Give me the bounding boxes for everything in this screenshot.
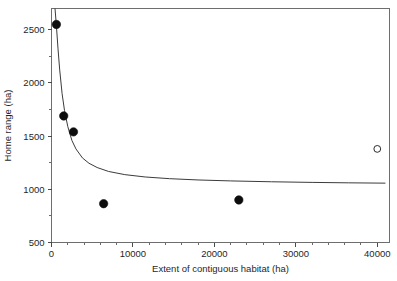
y-axis-tick-labels: 5001000150020002500 xyxy=(23,24,44,248)
y-tick-label: 500 xyxy=(29,237,45,248)
x-tick-label: 10000 xyxy=(120,248,146,259)
x-tick-label: 40000 xyxy=(364,248,390,259)
x-tick-label: 20000 xyxy=(201,248,227,259)
y-tick-label: 1000 xyxy=(23,184,44,195)
y-axis-major-ticks xyxy=(48,30,52,243)
fitted-curve xyxy=(55,9,385,184)
data-point xyxy=(235,196,243,204)
x-axis-tick-labels: 010000200003000040000 xyxy=(49,248,391,259)
data-point xyxy=(99,199,107,207)
y-tick-label: 2000 xyxy=(23,77,44,88)
chart-figure: 5001000150020002500 01000020000300004000… xyxy=(0,0,397,281)
data-point-open xyxy=(374,146,381,153)
data-points-filled xyxy=(52,20,243,208)
data-point xyxy=(60,112,68,120)
data-point xyxy=(52,20,60,28)
scatter-plot-svg: 5001000150020002500 01000020000300004000… xyxy=(0,0,397,281)
x-axis-title: Extent of contiguous habitat (ha) xyxy=(152,263,289,274)
y-tick-label: 1500 xyxy=(23,131,44,142)
data-point xyxy=(69,128,77,136)
data-points-open xyxy=(374,146,381,153)
x-tick-label: 30000 xyxy=(283,248,309,259)
y-tick-label: 2500 xyxy=(23,24,44,35)
y-axis-title: Home range (ha) xyxy=(2,90,13,162)
x-tick-label: 0 xyxy=(49,248,54,259)
